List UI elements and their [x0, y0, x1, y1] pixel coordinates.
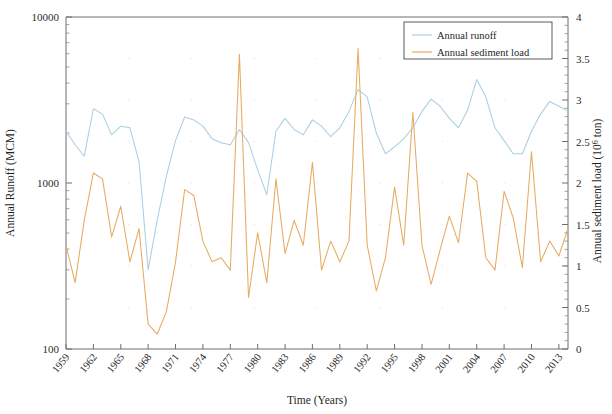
y-axis-left-tick-label: 1000	[37, 177, 60, 189]
x-axis-tick-label: 1992	[351, 351, 373, 374]
chart-legend: Annual runoffAnnual sediment load	[404, 22, 552, 59]
x-axis-tick-label: 1986	[296, 351, 318, 374]
y-axis-right-tick-label: 1.5	[576, 219, 590, 231]
y-axis-right-tick-label: 4	[576, 11, 582, 23]
legend-label: Annual runoff	[437, 30, 497, 41]
legend-label: Annual sediment load	[437, 47, 530, 58]
y-axis-left-tick-label: 10000	[32, 11, 60, 23]
x-axis-title: Time (Years)	[287, 394, 347, 407]
x-axis-tick-label: 1968	[132, 351, 154, 374]
y-axis-right-tick-label: 1	[576, 260, 582, 272]
y-axis-right-tick-label: 0.5	[576, 302, 590, 314]
x-axis-tick-label: 1998	[406, 351, 428, 374]
x-axis-tick-label: 2013	[543, 351, 565, 374]
x-axis-tick-label: 2001	[433, 351, 455, 374]
y-axis-right-tick-label: 2.5	[576, 136, 590, 148]
chart-svg: 100100010000 00.511.522.533.54 195919621…	[0, 0, 612, 414]
grid-dots	[128, 58, 506, 308]
y-axis-right-tick-label: 3	[576, 94, 582, 106]
series-line-annual-runoff	[66, 80, 568, 270]
x-axis-tick-label: 1983	[269, 351, 291, 374]
x-axis-tick-label: 1995	[379, 351, 401, 374]
y-axis-right-title: Annual sediment load (106 ton)	[591, 119, 605, 264]
y-axis-right-tick-label: 3.5	[576, 53, 590, 65]
y-axis-right-tick-label: 2	[576, 177, 582, 189]
x-axis-tick-label: 1965	[105, 351, 127, 374]
x-axis-tick-label: 2007	[488, 351, 510, 374]
chart-figure: 100100010000 00.511.522.533.54 195919621…	[0, 0, 612, 414]
y-axis-left-tick-label: 100	[43, 343, 60, 355]
x-axis-tick-label: 1977	[214, 351, 236, 374]
x-axis-tick-label: 2004	[461, 351, 483, 375]
data-series-group	[66, 49, 568, 335]
y-axis-left-title: Annual Runoff (MCM)	[4, 129, 17, 237]
x-axis-tick-label: 1989	[324, 351, 346, 374]
x-axis-tick-label: 1980	[242, 351, 264, 374]
x-axis-tick-label: 2010	[515, 351, 537, 374]
y-axis-right-ticks: 00.511.522.533.54	[562, 11, 590, 355]
x-axis-tick-label: 1974	[187, 351, 209, 375]
x-axis-tick-label: 1971	[159, 351, 181, 374]
x-axis-tick-label: 1962	[77, 351, 99, 374]
y-axis-right-tick-label: 0	[576, 343, 582, 355]
